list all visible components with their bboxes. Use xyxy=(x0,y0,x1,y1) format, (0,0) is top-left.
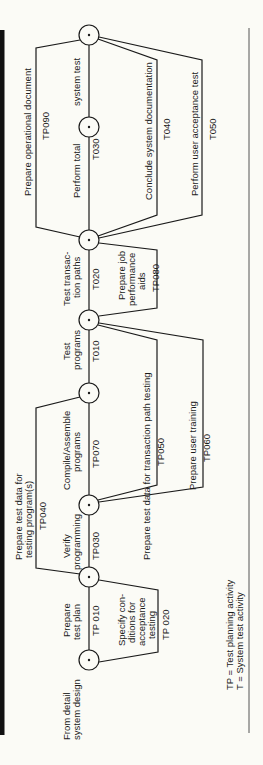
svg-text:programs: programs xyxy=(71,432,82,472)
svg-text:T010: T010 xyxy=(90,340,101,362)
svg-text:T020: T020 xyxy=(90,268,101,290)
svg-text:Conclude system documentation: Conclude system documentation xyxy=(143,62,154,200)
activity-t020: Test transac- tion paths T020 xyxy=(61,252,101,306)
svg-text:programs: programs xyxy=(71,330,82,370)
svg-text:Perform total: Perform total xyxy=(71,144,82,198)
event-node-4 xyxy=(79,383,99,403)
activity-network-diagram: From detail system design TP = Test plan… xyxy=(0,0,263,765)
svg-text:system design: system design xyxy=(71,679,82,740)
svg-text:Prepare test data for transact: Prepare test data for transaction path t… xyxy=(141,373,152,560)
svg-text:TP040: TP040 xyxy=(37,502,48,530)
start-label: From detail system design xyxy=(61,679,82,740)
svg-text:T040: T040 xyxy=(161,118,172,140)
event-node-5 xyxy=(79,310,99,330)
svg-text:Prepare operational document: Prepare operational document xyxy=(22,68,33,196)
svg-text:T050: T050 xyxy=(207,118,218,140)
svg-text:TP080: TP080 xyxy=(150,264,161,292)
svg-text:Perform user acceptance test: Perform user acceptance test xyxy=(189,72,200,196)
svg-text:T = System test activity: T = System test activity xyxy=(234,592,245,690)
svg-text:test plan: test plan xyxy=(71,604,82,640)
svg-text:testing: testing xyxy=(146,611,157,639)
activity-tp060: Prepare user training TP060 xyxy=(187,401,212,490)
svg-text:testing program(s): testing program(s) xyxy=(23,481,34,558)
activity-t010: Test programs T010 xyxy=(61,330,101,370)
activity-tp010: Prepare test plan TP 010 xyxy=(61,603,101,640)
event-node-7 xyxy=(79,25,99,45)
event-node-6 xyxy=(79,230,99,250)
event-node-2 xyxy=(79,567,99,587)
svg-text:TP060: TP060 xyxy=(201,434,212,462)
legend: TP = Test planning activity T = System t… xyxy=(224,579,245,690)
activity-tp050: Prepare test data for transaction path t… xyxy=(141,373,166,560)
svg-text:programming: programming xyxy=(71,514,82,570)
activity-tp080: Prepare job performance aids TP080 xyxy=(116,251,161,306)
activity-t050: Perform user acceptance test T050 xyxy=(189,72,218,196)
svg-text:tion paths: tion paths xyxy=(71,257,82,298)
svg-text:TP030: TP030 xyxy=(90,532,101,560)
svg-text:system test: system test xyxy=(71,58,82,106)
activity-tp030: Verify programming TP030 xyxy=(61,514,101,570)
svg-text:TP070: TP070 xyxy=(90,440,101,468)
svg-text:TP 020: TP 020 xyxy=(160,610,171,640)
svg-text:TP090: TP090 xyxy=(40,112,51,140)
activity-tp020: Specify con- ditions for acceptance test… xyxy=(116,594,171,646)
svg-text:aids: aids xyxy=(136,272,147,290)
svg-text:T030: T030 xyxy=(90,138,101,160)
svg-text:TP050: TP050 xyxy=(155,438,166,466)
activity-tp070: Compile/Assemble programs TP070 xyxy=(61,411,101,490)
activity-tp040: Prepare test data for testing program(s)… xyxy=(13,473,48,560)
svg-text:TP 010: TP 010 xyxy=(90,606,101,636)
event-node-3 xyxy=(79,495,99,515)
svg-text:Prepare user training: Prepare user training xyxy=(187,401,198,490)
event-node-1 xyxy=(79,650,99,670)
event-node-t030 xyxy=(79,117,99,137)
